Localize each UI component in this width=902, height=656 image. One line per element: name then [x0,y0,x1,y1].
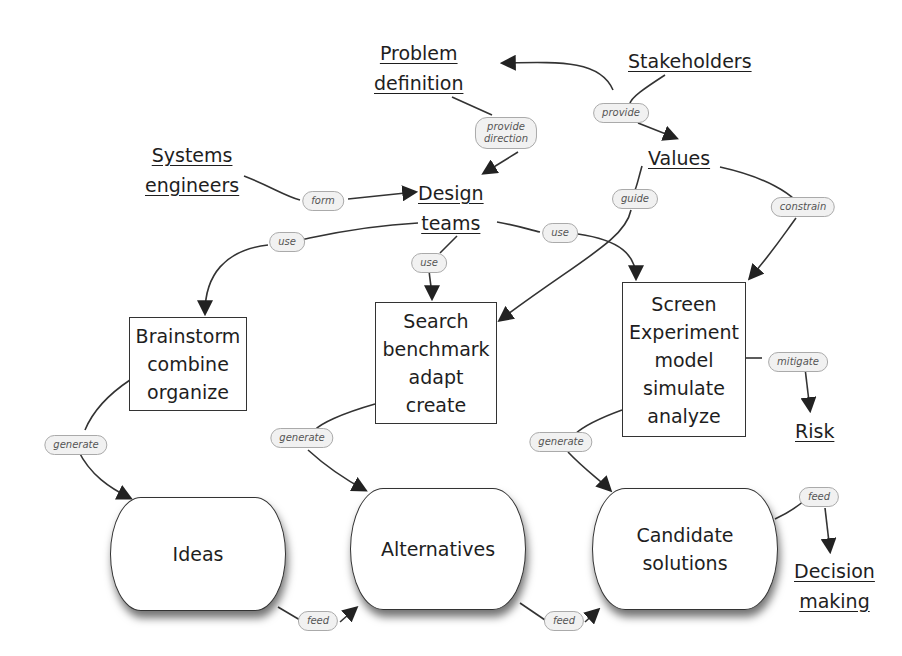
link-label: guide [621,193,649,204]
concept-values: Values [648,143,710,173]
concept-label: Risk [795,416,834,446]
activity-line: adapt [409,363,464,391]
concept-risk: Risk [795,416,834,446]
link-label: use [278,236,296,247]
activity-line: simulate [643,374,725,402]
activity-screen: Screen Experiment model simulate analyze [622,282,746,437]
link-label: constrain [780,201,826,212]
link-label: use [551,227,569,238]
link-constrain: constrain [771,197,835,217]
link-feed-decision: feed [799,487,839,507]
link-label: feed [553,615,575,626]
activity-search: Search benchmark adapt create [375,302,497,424]
link-use-right: use [542,223,578,243]
concept-label: engineers [145,170,239,200]
activity-line: benchmark [382,335,489,363]
activity-brainstorm: Brainstorm combine organize [129,317,247,411]
concept-decision-making: Decision making [794,556,875,616]
concept-label: definition [374,68,463,98]
concept-label: Design [418,178,484,208]
output-candidate-solutions: Candidate solutions [592,488,778,610]
link-use-left: use [269,232,305,252]
link-label: provide [484,121,528,133]
activity-line: Screen [651,290,716,318]
link-form: form [302,191,344,211]
activity-line: Experiment [629,318,739,346]
link-label: direction [484,133,528,145]
activity-line: analyze [647,402,721,430]
activity-line: Search [403,307,468,335]
link-feed-alternatives: feed [544,611,584,631]
activity-line: create [406,391,466,419]
link-label: generate [538,436,583,447]
link-generate-ideas: generate [44,435,107,455]
link-guide: guide [612,189,658,209]
concept-systems-engineers: Systems engineers [145,140,239,200]
link-label: generate [53,439,98,450]
concept-label: teams [418,208,484,238]
output-ideas: Ideas [110,497,286,611]
concept-label: Decision [794,556,875,586]
link-use-center: use [411,253,447,273]
output-label: solutions [642,549,727,577]
output-label: Alternatives [381,535,495,563]
concept-stakeholders: Stakeholders [628,46,752,76]
output-label: Candidate [636,521,733,549]
concept-label: Stakeholders [628,46,752,76]
link-mitigate: mitigate [768,352,828,372]
output-label: Ideas [173,540,224,568]
link-generate-candidates: generate [529,432,592,452]
activity-line: model [654,346,713,374]
link-label: feed [307,615,329,626]
concept-problem-definition: Problem definition [374,38,463,98]
concept-label: Problem [374,38,463,68]
link-label: use [420,257,438,268]
link-provide-direction: provide direction [475,117,537,149]
output-alternatives: Alternatives [350,488,526,610]
link-generate-alternatives: generate [270,428,333,448]
concept-label: making [794,586,875,616]
link-label: provide [602,107,640,118]
link-label: form [311,195,335,206]
link-label: generate [279,432,324,443]
link-feed-ideas: feed [298,611,338,631]
link-label: mitigate [777,356,819,367]
activity-line: combine [147,350,229,378]
link-label: feed [808,491,830,502]
concept-label: Systems [145,140,239,170]
concept-label: Values [648,143,710,173]
link-provide: provide [593,103,649,123]
activity-line: Brainstorm [136,322,241,350]
concept-design-teams: Design teams [418,178,484,238]
activity-line: organize [147,378,229,406]
